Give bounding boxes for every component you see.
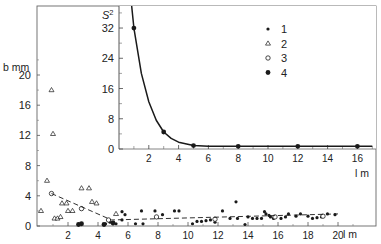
x-tick-label: 18 — [302, 230, 314, 241]
open-triangle-marker — [94, 201, 99, 205]
inset-y-tick-label: 8 — [108, 113, 114, 125]
small-filled-dot-marker — [153, 209, 156, 212]
small-filled-dot-marker — [306, 215, 309, 218]
x-tick-label: 12 — [212, 230, 224, 241]
open-triangle-marker — [66, 208, 71, 212]
inset-x-tick-label: 12 — [292, 153, 304, 164]
y-tick-label: 12 — [19, 129, 31, 141]
open-triangle-marker — [90, 199, 95, 203]
open-triangle-marker — [49, 88, 54, 92]
inset-y-axis-label: S2 — [102, 8, 114, 21]
main-x-axis: 2468101214161820 — [53, 222, 353, 241]
small-filled-dot-marker — [311, 217, 314, 220]
open-triangle-marker — [51, 131, 56, 135]
inset-y-tick-label: 16 — [102, 83, 114, 95]
series-2 — [39, 88, 119, 221]
small-filled-dot-marker — [279, 217, 282, 220]
x-tick-label: 8 — [155, 230, 161, 241]
open-triangle-marker — [60, 201, 65, 205]
small-filled-dot-marker — [221, 209, 224, 212]
small-filled-dot-marker — [195, 220, 198, 223]
small-filled-dot-marker — [266, 27, 269, 30]
open-circle-marker — [266, 56, 270, 60]
small-filled-dot-marker — [200, 220, 203, 223]
legend-label: 4 — [281, 67, 287, 79]
open-triangle-marker — [114, 211, 119, 215]
small-filled-dot-marker — [260, 217, 263, 220]
inset-x-tick-label: 10 — [262, 153, 274, 164]
y-tick-label: 8 — [25, 160, 31, 172]
large-filled-dot-marker — [111, 221, 116, 226]
open-triangle-marker — [45, 178, 50, 182]
small-filled-dot-marker — [161, 213, 164, 216]
inset-x-tick-label: 16 — [352, 153, 364, 164]
inset-x-tick-label: 4 — [176, 153, 182, 164]
small-filled-dot-marker — [255, 217, 258, 220]
inset-y-tick-label: 24 — [102, 52, 114, 64]
small-filled-dot-marker — [141, 222, 144, 225]
legend-label: 1 — [281, 23, 287, 35]
figure: 048121620 2468101214161820 b mm l m 0816… — [0, 0, 381, 244]
large-filled-dot-marker — [79, 221, 84, 226]
small-filled-dot-marker — [243, 223, 246, 226]
open-triangle-marker — [39, 208, 44, 212]
small-filled-dot-marker — [284, 215, 287, 218]
inset-plot-background — [119, 6, 376, 149]
inset-x-tick-label: 2 — [146, 153, 152, 164]
small-filled-dot-marker — [134, 222, 137, 225]
x-tick-label: 2 — [65, 230, 71, 241]
small-filled-dot-marker — [246, 215, 249, 218]
open-triangle-marker — [79, 186, 84, 190]
legend-label: 2 — [281, 38, 287, 50]
inset-x-tick-label: 14 — [322, 153, 334, 164]
main-y-axis-label: b mm — [3, 61, 30, 73]
small-filled-dot-marker — [315, 216, 318, 219]
small-filled-dot-marker — [228, 217, 231, 220]
x-tick-label: 4 — [95, 230, 101, 241]
inset-y-tick-label: 0 — [108, 143, 114, 155]
small-filled-dot-marker — [191, 222, 194, 225]
small-filled-dot-marker — [173, 209, 176, 212]
inset-y-label-sup: 2 — [109, 8, 113, 17]
small-filled-dot-marker — [234, 200, 237, 203]
legend-label: 3 — [281, 52, 287, 64]
small-filled-dot-marker — [120, 210, 123, 213]
small-filled-dot-marker — [123, 213, 126, 216]
main-x-axis-label: l m — [343, 228, 357, 240]
open-triangle-marker — [58, 214, 63, 218]
inset-x-tick-label: 6 — [206, 153, 212, 164]
x-tick-label: 10 — [182, 230, 194, 241]
small-filled-dot-marker — [209, 218, 212, 221]
y-tick-label: 4 — [25, 190, 31, 202]
y-tick-label: 0 — [25, 220, 31, 232]
series-1 — [104, 200, 337, 226]
open-triangle-marker — [70, 208, 75, 212]
inset-x-tick-label: 8 — [235, 153, 241, 164]
inset-plot: 08162432 246810121416 S2 l m — [102, 6, 376, 179]
x-tick-label: 16 — [272, 230, 284, 241]
open-circle-marker — [213, 217, 217, 221]
small-filled-dot-marker — [236, 217, 239, 220]
y-tick-label: 16 — [19, 99, 31, 111]
large-filled-dot-marker — [102, 222, 107, 227]
small-filled-dot-marker — [140, 209, 143, 212]
open-triangle-marker — [87, 186, 92, 190]
small-filled-dot-marker — [264, 212, 267, 215]
small-filled-dot-marker — [204, 219, 207, 222]
x-tick-label: 6 — [125, 230, 131, 241]
small-filled-dot-marker — [177, 209, 180, 212]
inset-y-tick-label: 32 — [102, 22, 114, 34]
small-filled-dot-marker — [299, 212, 302, 215]
large-filled-dot-marker — [266, 70, 271, 75]
x-tick-label: 14 — [242, 230, 254, 241]
series-3 — [49, 191, 325, 222]
inset-x-axis-label: l m — [355, 167, 369, 179]
small-filled-dot-marker — [251, 217, 254, 220]
